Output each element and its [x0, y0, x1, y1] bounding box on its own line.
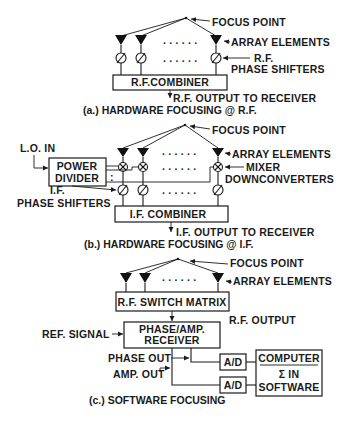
array-elements-label: ARRAY ELEMENTS — [233, 275, 332, 287]
dots-separator: . . . . . . — [162, 145, 196, 157]
dots-separator: . . . . . . — [162, 271, 196, 283]
rf-output-label: R.F. OUTPUT — [229, 314, 296, 326]
software-label: SOFTWARE — [258, 381, 319, 393]
svg-text:PHASE SHIFTERS: PHASE SHIFTERS — [231, 63, 325, 75]
sum-in-label: Σ IN — [279, 368, 300, 380]
lo-in-label: L.O. IN — [20, 142, 55, 154]
focus-point-icon — [177, 258, 180, 261]
mixer-label: MIXER — [246, 161, 280, 173]
focus-point-icon — [185, 17, 188, 20]
rf-combiner-label: R.F.COMBINER — [131, 76, 209, 88]
svg-text:PHASE SHIFTERS: PHASE SHIFTERS — [17, 197, 111, 209]
array-elements-label: ARRAY ELEMENTS — [231, 36, 330, 48]
divider-dots: : — [110, 171, 114, 183]
computer-label: COMPUTER — [258, 352, 320, 364]
focus-point-arrow — [191, 19, 210, 21]
focus-point-label: FOCUS POINT — [230, 257, 304, 269]
svg-text:DOWNCONVERTERS: DOWNCONVERTERS — [225, 173, 334, 185]
dots-separator: . . . . . . — [162, 184, 196, 196]
ref-signal-label: REF. SIGNAL — [42, 328, 110, 340]
antenna-icon — [210, 35, 222, 45]
panel-a-hardware-focusing-rf: FOCUS POINT ARRAY ELEMENTS . . . . . . .… — [83, 16, 330, 116]
svg-text:A/D: A/D — [224, 356, 243, 368]
rf-switch-matrix-label: R.F. SWITCH MATRIX — [118, 296, 227, 308]
if-output-label: I.F. OUTPUT TO RECEIVER — [176, 226, 315, 238]
panel-c-software-focusing: FOCUS POINT ARRAY ELEMENTS . . . . . . R… — [42, 257, 332, 406]
antenna-icon — [115, 35, 127, 45]
focusing-diagram: FOCUS POINT ARRAY ELEMENTS . . . . . . .… — [0, 0, 346, 421]
svg-text:RECEIVER: RECEIVER — [144, 334, 199, 346]
focus-point-label: FOCUS POINT — [212, 16, 286, 28]
if-combiner-label: I.F. COMBINER — [130, 208, 207, 220]
svg-text:A/D: A/D — [224, 379, 243, 391]
focus-point-icon — [184, 124, 187, 127]
antenna-icon — [135, 35, 147, 45]
caption-a: (a.) HARDWARE FOCUSING @ R.F. — [83, 104, 257, 116]
array-elements-label: ARRAY ELEMENTS — [232, 148, 331, 160]
phase-out-label: PHASE OUT — [108, 352, 171, 364]
if-phase-shifters-label: I.F. — [50, 184, 65, 196]
power-divider-label: POWER — [57, 160, 98, 172]
rf-output-label: R.F. OUTPUT TO RECEIVER — [173, 92, 316, 104]
dots-separator: . . . . . . — [163, 34, 197, 46]
focus-point-label: FOCUS POINT — [212, 124, 286, 136]
caption-b: (b.) HARDWARE FOCUSING @ I.F. — [84, 238, 254, 250]
amp-out-label: AMP. OUT — [113, 368, 165, 380]
dots-separator: . . . . . . — [162, 160, 196, 172]
panel-b-hardware-focusing-if: FOCUS POINT ARRAY ELEMENTS . . . . . . .… — [17, 124, 334, 250]
caption-c: (c.) SOFTWARE FOCUSING — [89, 394, 226, 406]
dots-separator: . . . . . . — [163, 52, 197, 64]
svg-text:DIVIDER: DIVIDER — [55, 172, 99, 184]
